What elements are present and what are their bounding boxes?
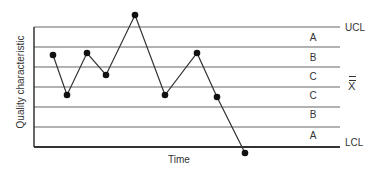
data-point <box>64 92 71 99</box>
data-line <box>53 15 245 153</box>
zone-label-lower-b: B <box>310 109 317 120</box>
control-chart <box>0 0 380 175</box>
zone-label-upper-b: B <box>310 52 317 63</box>
zone-label-upper-a: A <box>310 32 317 43</box>
data-point <box>242 150 249 157</box>
data-point <box>162 92 169 99</box>
zone-label-lower-c: C <box>309 90 316 101</box>
zone-label-lower-a: A <box>310 130 317 141</box>
data-points <box>50 12 249 157</box>
center-line-label: X <box>348 80 355 92</box>
data-point <box>84 50 91 57</box>
data-point <box>214 94 221 101</box>
data-point <box>194 50 201 57</box>
zone-label-upper-c: C <box>309 71 316 82</box>
data-point <box>50 52 57 59</box>
double-bar-icon <box>349 76 356 81</box>
zone-lines <box>34 27 340 147</box>
lcl-label: LCL <box>345 137 363 148</box>
ucl-label: UCL <box>345 22 365 33</box>
y-axis-label: Quality characteristic <box>15 36 26 129</box>
x-axis-label: Time <box>168 154 190 165</box>
data-point <box>132 12 139 19</box>
data-point <box>103 72 110 79</box>
